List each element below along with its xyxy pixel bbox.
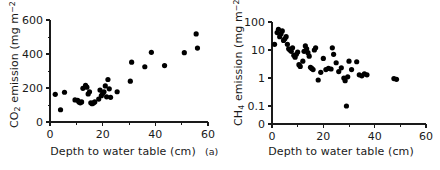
y-tick-label: 0 — [258, 118, 265, 131]
data-point — [285, 42, 290, 47]
axes-group: 02040600200400600 — [22, 14, 215, 141]
y-tick-label: 400 — [22, 48, 43, 61]
data-point — [128, 79, 133, 84]
data-point — [300, 59, 305, 64]
x-tick-label: 0 — [47, 128, 54, 141]
panel-a-label: (a) — [205, 146, 218, 157]
panel-a-x-axis-title: Depth to water table (cm) — [0, 145, 220, 158]
x-tick-label: 60 — [201, 128, 215, 141]
data-point — [354, 59, 359, 64]
panel-a-co2-scatter: 02040600200400600 CO2 emission (mg m−2 h… — [0, 0, 220, 170]
y-tick-label: 200 — [22, 82, 43, 95]
y-tick-label: 0.1 — [248, 100, 266, 113]
x-tick-label: 40 — [368, 130, 382, 143]
data-point — [162, 63, 167, 68]
data-point — [53, 92, 58, 97]
data-point — [339, 65, 344, 70]
data-points-group — [272, 27, 399, 109]
y-tick-label: 100 — [244, 16, 265, 29]
data-point — [295, 49, 300, 54]
data-point — [284, 34, 289, 39]
data-point — [107, 86, 112, 91]
figure-container: 02040600200400600 CO2 emission (mg m−2 h… — [0, 0, 440, 170]
data-point — [280, 28, 285, 33]
data-point — [321, 56, 326, 61]
axes-group: 020406000.1110100 — [244, 16, 433, 143]
data-point — [313, 45, 318, 50]
x-tick-label: 20 — [316, 130, 330, 143]
x-tick-label: 60 — [419, 130, 433, 143]
data-point — [115, 89, 120, 94]
data-point — [364, 72, 369, 77]
data-point — [129, 60, 134, 65]
data-point — [307, 54, 312, 59]
data-point — [344, 103, 349, 108]
data-point — [394, 77, 399, 82]
data-point — [290, 45, 295, 50]
data-point — [58, 107, 63, 112]
panel-a-y-axis-title: CO2 emission (mg m−2 h−1) — [8, 0, 22, 128]
y-tick-label: 0 — [36, 116, 43, 129]
x-tick-label: 40 — [148, 128, 162, 141]
data-point — [194, 31, 199, 36]
data-point — [298, 64, 303, 69]
x-tick-label: 20 — [96, 128, 110, 141]
panel-b-ch4-scatter: 020406000.1110100 CH4 emission (mg m−2 d… — [220, 0, 440, 170]
y-tick-label: 1 — [258, 72, 265, 85]
data-point — [310, 67, 315, 72]
data-point — [346, 59, 351, 64]
data-point — [84, 85, 89, 90]
panel-b-x-axis-title: Depth to water table (cm) — [220, 145, 440, 158]
data-point — [349, 67, 354, 72]
data-point — [345, 74, 350, 79]
data-point — [149, 50, 154, 55]
data-point — [328, 66, 333, 71]
x-tick-label: 0 — [269, 130, 276, 143]
y-tick-label: 10 — [251, 44, 265, 57]
data-point — [318, 70, 323, 75]
data-point — [79, 99, 84, 104]
data-point — [182, 50, 187, 55]
data-point — [195, 45, 200, 50]
data-point — [62, 90, 67, 95]
data-point — [330, 45, 335, 50]
data-point — [272, 42, 277, 47]
data-point — [316, 77, 321, 82]
data-point — [87, 89, 92, 94]
data-point — [334, 60, 339, 65]
data-point — [331, 52, 336, 57]
data-point — [142, 64, 147, 69]
panel-b-y-axis-title: CH4 emission (mg m−2 d−1) — [232, 0, 246, 126]
data-point — [101, 89, 106, 94]
data-point — [105, 77, 110, 82]
y-tick-label: 600 — [22, 14, 43, 27]
data-point — [108, 95, 113, 100]
data-points-group — [53, 31, 200, 112]
